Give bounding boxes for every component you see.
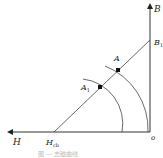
b-axis-label: B xyxy=(153,4,161,14)
point-a1 xyxy=(98,85,102,89)
point-a xyxy=(116,68,120,72)
b1-label: B1 xyxy=(153,38,163,48)
demagnetization-diagram: B B1 A A1 H Hcb o 图 — 去磁曲线 xyxy=(0,0,163,158)
hcb-label: Hcb xyxy=(45,138,59,148)
h-axis-label: H xyxy=(12,137,21,147)
a1-label: A1 xyxy=(80,83,90,93)
origin-label: o xyxy=(151,134,155,142)
arc-a xyxy=(105,66,148,132)
figure-caption: 图 — 去磁曲线 xyxy=(38,150,78,158)
a-label: A xyxy=(113,54,120,63)
